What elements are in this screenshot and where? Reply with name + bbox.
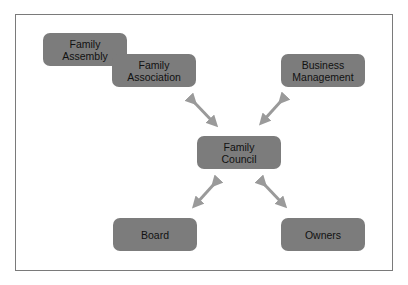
node-label: Business Management (292, 59, 353, 83)
node-label: Owners (305, 229, 341, 241)
node-label: Family Association (127, 59, 181, 83)
node-board: Board (113, 218, 197, 251)
node-label: Family Council (221, 141, 256, 165)
node-family-association: Family Association (112, 54, 196, 87)
node-label: Board (141, 229, 169, 241)
node-business-management: Business Management (281, 54, 365, 87)
node-label: Family Assembly (62, 38, 108, 62)
node-owners: Owners (281, 218, 365, 251)
node-family-council: Family Council (197, 136, 281, 169)
